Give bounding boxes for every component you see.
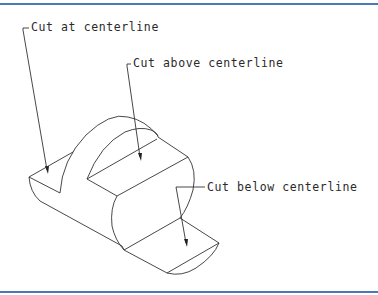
isometric-drawing: Cut at centerline Cut above centerline C… [0,0,378,295]
leader-line-cut-below [176,187,205,243]
leader-line-cut-above [127,64,140,157]
label-cut-below-centerline: Cut below centerline [176,180,357,247]
label-cut-above-text: Cut above centerline [133,56,283,70]
frame-bottom-border [0,291,378,293]
leader-line-cut-at [23,28,47,170]
arrow-icon [184,239,188,247]
label-cut-below-text: Cut below centerline [207,180,357,194]
part-geometry [29,116,219,274]
arrow-icon [138,153,142,161]
label-cut-above-centerline: Cut above centerline [127,56,283,161]
label-cut-at-text: Cut at centerline [31,20,159,34]
label-cut-at-centerline: Cut at centerline [23,20,159,174]
